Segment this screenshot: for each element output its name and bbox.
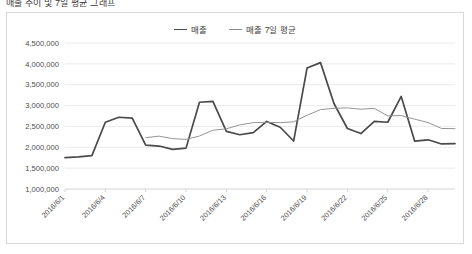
- x-axis-tick-label: 2016/6/28: [400, 193, 430, 223]
- x-axis-tick-label: 2016/6/10: [158, 193, 188, 223]
- chart-svg: 4,500,0004,000,0003,500,0003,000,0002,50…: [7, 13, 465, 245]
- y-axis-tick-label: 2,500,000: [25, 122, 59, 131]
- x-axis-tick-label: 2016/6/16: [239, 193, 269, 223]
- y-axis-tick-label: 4,000,000: [25, 60, 59, 69]
- x-axis-tick-label: 2016/6/7: [120, 193, 147, 220]
- x-axis-tick-label: 2016/6/1: [40, 193, 67, 220]
- chart-frame: 매출 매출 7일 평균 4,500,0004,000,0003,500,0003…: [6, 12, 464, 244]
- y-axis-tick-label: 1,500,000: [25, 164, 59, 173]
- x-axis-tick-label: 2016/6/19: [279, 193, 309, 223]
- y-axis-tick-label: 2,000,000: [25, 143, 59, 152]
- y-axis-labels: 4,500,0004,000,0003,500,0003,000,0002,50…: [25, 39, 59, 194]
- x-axis-tick-label: 2016/6/22: [319, 193, 349, 223]
- y-axis-tick-label: 4,500,000: [25, 39, 59, 48]
- data-series-layer: [65, 63, 455, 158]
- x-axis-labels: 2016/6/12016/6/42016/6/72016/6/102016/6/…: [40, 193, 430, 223]
- clipped-page-title: 매출 추이 및 7일 평균 그래프: [6, 0, 115, 9]
- y-axis-tick-label: 3,000,000: [25, 101, 59, 110]
- plot-area: 4,500,0004,000,0003,500,0003,000,0002,50…: [7, 13, 465, 245]
- x-axis-tick-label: 2016/6/4: [80, 193, 107, 220]
- y-axis-tick-label: 3,500,000: [25, 80, 59, 89]
- y-axis-tick-label: 1,000,000: [25, 185, 59, 194]
- series-line-sales: [65, 63, 455, 158]
- x-axis-tick-label: 2016/6/25: [360, 193, 390, 223]
- x-axis-tick-label: 2016/6/13: [198, 193, 228, 223]
